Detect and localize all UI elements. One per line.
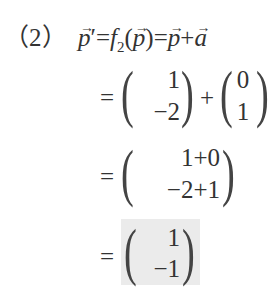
problem-number: （2） xyxy=(4,24,67,52)
left-paren: ( xyxy=(124,220,137,284)
left-paren: ( xyxy=(121,62,134,126)
left-paren: ( xyxy=(121,141,134,205)
equals-sign: = xyxy=(100,243,114,271)
vector-p: →p xyxy=(168,24,181,52)
plus-sign: + xyxy=(200,84,214,112)
vector-entry: 1 xyxy=(140,66,180,94)
right-paren: ) xyxy=(181,62,194,126)
equals-sign: = xyxy=(100,84,114,112)
vector-entry: 1 xyxy=(140,224,180,252)
vector-a: →a xyxy=(194,24,207,52)
vector-entry: 0 xyxy=(230,66,256,94)
vector-entry: 1 xyxy=(230,98,256,126)
equals-sign: = xyxy=(100,163,114,191)
vector-p: →p xyxy=(133,24,146,52)
vector-entry: −2+1 xyxy=(140,176,220,204)
right-paren: ) xyxy=(256,62,269,126)
right-paren: ) xyxy=(222,141,235,205)
right-paren: ) xyxy=(182,220,195,284)
equation-line-1: →p′=f2(→p)=→p+→a xyxy=(78,24,207,61)
vector-entry: −2 xyxy=(140,98,180,126)
vector-entry: −1 xyxy=(140,255,180,283)
vector-entry: 1+0 xyxy=(140,144,220,172)
vector-p-prime: →p xyxy=(78,24,91,52)
